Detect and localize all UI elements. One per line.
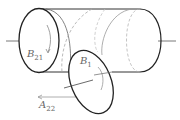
ellipse-b21 <box>19 9 59 73</box>
cylinder-right-end <box>140 9 161 72</box>
cylinder-diagram: B21 B1 A22 <box>0 0 180 120</box>
cylinder-right-end-hidden <box>127 9 141 72</box>
intersection-curve-4-hidden <box>95 9 105 52</box>
label-b1: B1 <box>80 56 92 69</box>
label-b21: B21 <box>27 49 43 62</box>
label-a22: A22 <box>39 100 55 113</box>
intersection-curve-3 <box>102 9 132 55</box>
